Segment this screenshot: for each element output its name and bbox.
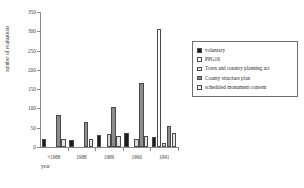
x-tick-mark	[95, 147, 96, 151]
bar	[124, 133, 128, 147]
bar	[162, 143, 166, 147]
y-tick-label: 100	[28, 105, 36, 111]
bar-group	[95, 12, 123, 147]
x-tick-mark	[68, 147, 69, 151]
legend-item: County structure plan	[197, 74, 294, 83]
x-tick-label: 1991	[159, 154, 169, 160]
bar	[111, 107, 115, 148]
legend-swatch-icon	[197, 57, 202, 62]
bar-group	[40, 12, 68, 147]
y-tick-label: 50	[31, 125, 36, 131]
bar	[107, 134, 111, 147]
y-tick-label: 350	[28, 9, 36, 15]
bar-chart-figure: 050100150200250300350 <19881988198919901…	[0, 0, 304, 188]
y-tick-label: 300	[28, 28, 36, 34]
bar-group	[123, 12, 151, 147]
legend-item-label: voluntary	[205, 48, 225, 53]
bar	[89, 139, 93, 147]
y-tick-label: 250	[28, 48, 36, 54]
legend-item-label: PPG16	[205, 57, 220, 62]
legend-item: PPG16	[197, 55, 294, 64]
bar	[97, 135, 101, 147]
x-tick-label: <1988	[47, 154, 60, 160]
y-tick-label: 150	[28, 86, 36, 92]
x-tick-label: 1989	[104, 154, 114, 160]
bar	[144, 136, 148, 147]
y-tick-mark	[37, 147, 41, 148]
bar	[84, 122, 88, 147]
y-axis-title: number of evaluations	[4, 26, 10, 72]
x-tick-mark	[150, 147, 151, 151]
bar	[134, 139, 138, 147]
x-axis-line	[40, 147, 178, 148]
bar	[152, 137, 156, 147]
bar	[157, 29, 161, 147]
legend-item-label: Town and country planning act	[205, 66, 269, 71]
x-tick-label: 1990	[131, 154, 141, 160]
legend-swatch-icon	[197, 85, 202, 90]
x-tick-mark	[178, 147, 179, 151]
x-tick-mark	[123, 147, 124, 151]
bar	[61, 139, 65, 147]
bar	[172, 133, 176, 147]
x-axis-title: year	[41, 163, 50, 169]
bar	[69, 140, 73, 147]
bar	[139, 83, 143, 147]
bar-group	[68, 12, 96, 147]
bar	[167, 126, 171, 147]
bar	[42, 139, 46, 147]
plot-area: 050100150200250300350 <19881988198919901…	[40, 12, 178, 147]
bar	[116, 136, 120, 147]
chart-legend: voluntaryPPG16Town and country planning …	[192, 41, 298, 97]
legend-item: Town and country planning act	[197, 64, 294, 73]
legend-item: voluntary	[197, 46, 294, 55]
legend-item-label: scheduled monument consent	[205, 85, 266, 90]
x-tick-label: 1988	[76, 154, 86, 160]
legend-swatch-icon	[197, 67, 202, 72]
legend-swatch-icon	[197, 48, 202, 53]
bar	[56, 115, 60, 147]
bar-group	[150, 12, 178, 147]
legend-item: scheduled monument consent	[197, 83, 294, 92]
legend-item-label: County structure plan	[205, 76, 250, 81]
y-tick-label: 200	[28, 67, 36, 73]
y-tick-label: 0	[33, 144, 36, 150]
legend-swatch-icon	[197, 76, 202, 81]
